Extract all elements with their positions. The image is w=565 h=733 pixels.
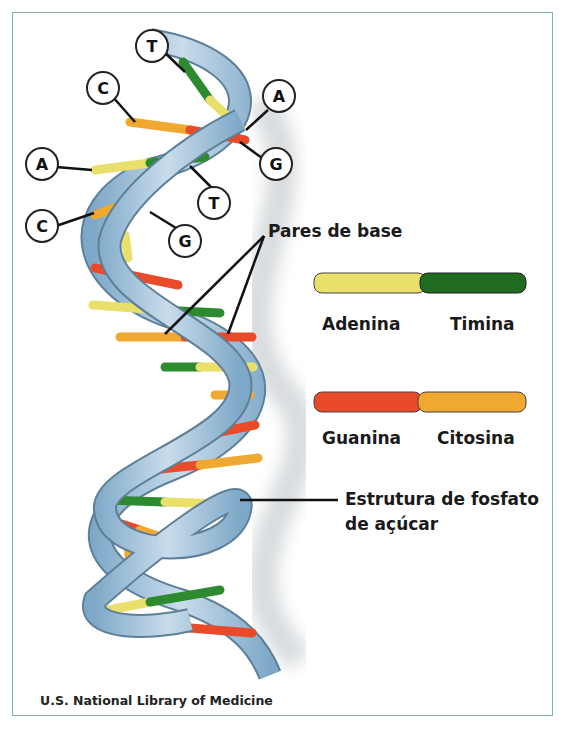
credit-text: U.S. National Library of Medicine	[40, 693, 273, 708]
callout-A-top-right: A	[262, 79, 296, 113]
legend-cytosine-label: Citosina	[437, 428, 515, 448]
backbone-label-line1: Estrutura de fosfato	[345, 489, 539, 509]
legend-thymine-label: Timina	[450, 314, 515, 334]
legend-adenine-label: Adenina	[322, 314, 400, 334]
callout-T-top: T	[135, 29, 169, 63]
callout-G-right: G	[259, 147, 293, 181]
callout-A-left: A	[25, 147, 59, 181]
callout-C-top: C	[86, 71, 120, 105]
backbone-label-line2: de açúcar	[345, 514, 438, 534]
callout-G-lower: G	[168, 224, 202, 258]
callout-C-left: C	[25, 209, 59, 243]
base-pairs-label: Pares de base	[268, 221, 402, 241]
legend-guanine-label: Guanina	[322, 428, 401, 448]
callout-T-middle: T	[197, 186, 231, 220]
